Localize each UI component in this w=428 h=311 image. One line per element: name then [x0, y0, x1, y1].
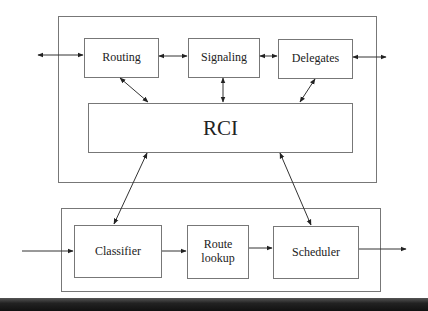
classifier-label: Classifier — [74, 225, 162, 278]
arrow-rci-scheduler — [280, 153, 311, 225]
routing-label: Routing — [84, 38, 159, 78]
arrow-routing-rci — [120, 78, 148, 102]
arrow-rci-classifier — [114, 153, 147, 224]
route-lookup-line2: lookup — [201, 252, 234, 266]
signaling-label: Signaling — [188, 38, 260, 78]
route-lookup-label: Route lookup — [187, 225, 249, 279]
scheduler-label: Scheduler — [273, 226, 359, 279]
architecture-diagram: Routing Signaling Delegates RCI Classifi… — [0, 0, 428, 311]
route-lookup-line1: Route — [204, 238, 233, 252]
arrow-delegates-rci — [300, 79, 315, 102]
delegates-label: Delegates — [278, 39, 353, 79]
bottom-edge-bar — [0, 298, 428, 311]
rci-label: RCI — [88, 103, 353, 153]
